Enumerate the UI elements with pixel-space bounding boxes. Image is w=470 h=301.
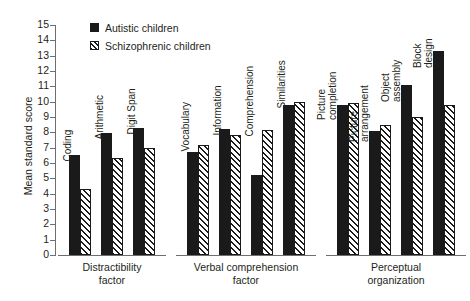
bar-autistic <box>401 85 412 255</box>
legend-label-schizophrenic: Schizophrenic children <box>105 40 211 52</box>
x-axis-segment <box>176 255 316 256</box>
y-axis-line <box>55 25 56 256</box>
category-label: Similarities <box>277 60 288 108</box>
legend-label-autistic: Autistic children <box>105 22 179 34</box>
y-tick-label: 4 <box>25 187 49 200</box>
y-tick-mark <box>50 117 55 118</box>
bar-schizophrenic <box>262 130 273 255</box>
category-label: Comprehension <box>245 66 256 137</box>
y-tick-label: 13 <box>25 49 49 62</box>
y-tick-label: 15 <box>25 18 49 31</box>
group-caption: Verbal comprehensionfactor <box>166 261 326 287</box>
y-tick-mark <box>50 163 55 164</box>
y-tick-label: 14 <box>25 33 49 46</box>
category-label: Coding <box>63 129 74 161</box>
bar-schizophrenic <box>444 105 455 255</box>
category-label: Arithmetic <box>95 95 106 139</box>
y-tick-mark <box>50 148 55 149</box>
bar-schizophrenic <box>294 102 305 255</box>
y-tick-mark <box>50 25 55 26</box>
y-tick-mark <box>50 224 55 225</box>
y-tick-label: 7 <box>25 141 49 154</box>
y-tick-label: 10 <box>25 95 49 108</box>
bar-autistic <box>69 155 80 255</box>
x-axis-segment <box>58 255 166 256</box>
bar-autistic <box>337 105 348 255</box>
y-tick-label: 5 <box>25 171 49 184</box>
y-tick-mark <box>50 178 55 179</box>
y-tick-label: 1 <box>25 233 49 246</box>
legend-item-autistic: Autistic children <box>90 20 211 35</box>
bar-autistic <box>187 152 198 255</box>
bar-autistic <box>283 105 294 255</box>
y-tick-mark <box>50 209 55 210</box>
y-tick-mark <box>50 102 55 103</box>
y-tick-label: 3 <box>25 202 49 215</box>
legend: Autistic children Schizophrenic children <box>90 20 211 56</box>
y-tick-mark <box>50 194 55 195</box>
bar-schizophrenic <box>198 145 209 255</box>
bar-schizophrenic <box>112 158 123 255</box>
y-tick-label: 0 <box>25 248 49 261</box>
bar-schizophrenic <box>144 148 155 255</box>
legend-item-schizophrenic: Schizophrenic children <box>90 38 211 53</box>
y-tick-mark <box>50 56 55 57</box>
category-label: Picture arrangement <box>349 85 370 142</box>
bar-schizophrenic <box>412 117 423 255</box>
y-tick-mark <box>50 132 55 133</box>
y-tick-mark <box>50 240 55 241</box>
y-tick-mark <box>50 86 55 87</box>
bar-schizophrenic <box>380 125 391 255</box>
legend-swatch-autistic-icon <box>90 23 99 32</box>
y-tick-mark <box>50 71 55 72</box>
legend-swatch-schizophrenic-icon <box>90 41 99 50</box>
bar-autistic <box>251 175 262 255</box>
y-tick-mark <box>50 40 55 41</box>
y-tick-label: 6 <box>25 156 49 169</box>
category-label: Block design <box>413 39 434 68</box>
category-label: Object assembly <box>381 60 402 102</box>
y-tick-mark <box>50 255 55 256</box>
group-caption: Perceptualorganization <box>316 261 470 287</box>
bar-schizophrenic <box>80 189 91 255</box>
y-tick-label: 2 <box>25 217 49 230</box>
bar-autistic <box>219 129 230 255</box>
bar-schizophrenic <box>230 135 241 255</box>
category-label: Vocabulary <box>181 102 192 151</box>
y-tick-label: 8 <box>25 125 49 138</box>
category-label: Information <box>213 86 224 136</box>
y-tick-label: 11 <box>25 79 49 92</box>
y-tick-label: 12 <box>25 64 49 77</box>
bar-autistic <box>369 131 380 255</box>
category-label: Digit Span <box>127 88 138 134</box>
bar-autistic <box>133 128 144 255</box>
x-axis-segment <box>326 255 466 256</box>
bar-autistic <box>101 133 112 255</box>
y-tick-label: 9 <box>25 110 49 123</box>
category-label: Picture completion <box>317 72 338 120</box>
bar-autistic <box>433 51 444 255</box>
